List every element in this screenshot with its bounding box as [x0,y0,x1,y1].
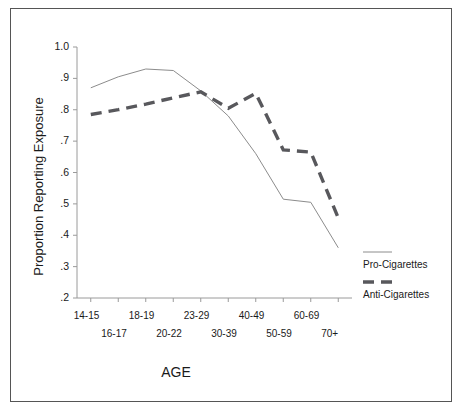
legend-label-anti-cigarettes: Anti-Cigarettes [363,289,429,300]
series-line-anti-cigarettes [91,92,338,218]
x-tick-label: 50-59 [266,328,292,339]
x-tick-label: 40-49 [239,310,265,321]
y-axis-title: Proportion Reporting Exposure [31,72,46,302]
y-axis-ticks [73,47,77,298]
x-tick-label: 70+ [321,328,338,339]
x-tick-label: 16-17 [101,328,127,339]
x-tick-label: 20-22 [156,328,182,339]
chart-figure-frame: 1.0.9.8.7.6.5.4.3.2 14-1516-1718-1920-22… [10,8,452,402]
x-axis-ticks [91,298,339,302]
x-tick-label: 18-19 [129,310,155,321]
y-tick-label: 1.0 [35,40,69,52]
chart-canvas [11,9,453,403]
x-tick-label: 14-15 [74,310,100,321]
legend-label-pro-cigarettes: Pro-Cigarettes [363,259,427,270]
x-tick-label: 30-39 [211,328,237,339]
x-axis-title: AGE [11,364,341,380]
chart-plot-area: 1.0.9.8.7.6.5.4.3.2 14-1516-1718-1920-22… [11,9,451,401]
series-line-pro-cigarettes [91,69,338,248]
x-tick-label: 23-29 [184,310,210,321]
x-tick-label: 60-69 [294,310,320,321]
